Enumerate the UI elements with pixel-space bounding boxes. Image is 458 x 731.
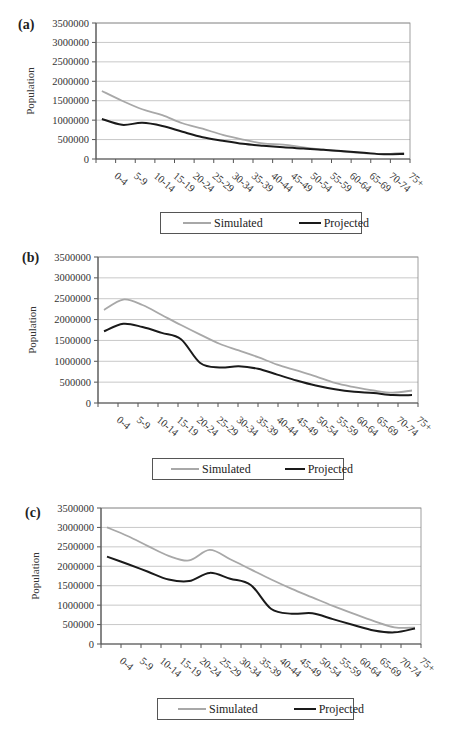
plot-frame (96, 23, 410, 159)
x-tick-label: 0-4 (115, 414, 133, 432)
y-tick-label: 500000 (63, 619, 95, 630)
x-tick-label: 35-39 (255, 414, 281, 438)
x-tick-label: 5-9 (132, 170, 150, 187)
x-tick-label: 5-9 (138, 655, 156, 672)
x-axis-title: Age (243, 443, 262, 445)
y-tick-label: 3500000 (57, 503, 94, 514)
y-tick-label: 0 (84, 154, 89, 165)
legend-a: Simulated Projected (160, 212, 362, 234)
x-tick-label: 55-59 (328, 170, 354, 194)
simulated-series-line (104, 299, 412, 392)
x-tick-label: 65-69 (375, 414, 401, 438)
projected-series-line (104, 324, 412, 396)
y-tick-label: 2000000 (54, 314, 91, 325)
x-tick-label: 0-4 (112, 170, 130, 188)
y-tick-label: 1500000 (54, 335, 91, 346)
x-tick-label: 45-49 (289, 170, 315, 194)
x-tick-label: 35-39 (250, 170, 276, 194)
x-tick-label: 60-64 (355, 414, 381, 439)
legend-item-simulated: Simulated (183, 216, 263, 231)
projected-series-line (102, 119, 404, 154)
x-tick-label: 55-59 (335, 414, 361, 438)
x-tick-label: 50-54 (315, 414, 341, 439)
legend-item-projected: Projected (299, 216, 369, 231)
y-tick-label: 3000000 (54, 272, 91, 283)
x-tick-label: 65-69 (378, 655, 404, 679)
x-tick-label: 10-14 (155, 414, 181, 439)
projected-line-swatch-icon (299, 222, 321, 224)
simulated-series-line (107, 527, 415, 627)
y-tick-label: 1000000 (57, 600, 94, 611)
chart-panel-c: (c) 050000010000001500000200000025000003… (0, 480, 458, 720)
x-tick-label: 45-49 (295, 414, 321, 438)
x-axis-title: Age (238, 199, 257, 200)
chart-a: 0500000100000015000002000000250000030000… (0, 0, 458, 200)
chart-panel-a: (a) 050000010000001500000200000025000003… (0, 0, 458, 240)
plot-frame (98, 257, 418, 403)
y-axis-title: Population (26, 306, 38, 354)
x-tick-label: 40-44 (278, 655, 304, 680)
y-tick-label: 3000000 (52, 37, 89, 48)
legend-label-simulated: Simulated (209, 702, 258, 717)
x-tick-label: 45-49 (298, 655, 324, 679)
x-tick-label: 25-29 (215, 414, 241, 438)
y-tick-label: 3500000 (52, 18, 89, 29)
x-tick-label: 30-34 (235, 414, 261, 439)
legend-label-simulated: Simulated (202, 462, 251, 477)
x-tick-label: 70-74 (398, 655, 424, 680)
y-tick-label: 0 (89, 639, 94, 650)
x-tick-label: 25-29 (210, 170, 236, 194)
legend-item-simulated: Simulated (178, 702, 258, 717)
y-tick-label: 500000 (60, 377, 92, 388)
projected-series-line (107, 557, 415, 633)
x-tick-label: 40-44 (275, 414, 301, 439)
simulated-line-swatch-icon (178, 708, 206, 710)
x-tick-label: 15-19 (178, 655, 204, 679)
projected-line-swatch-icon (294, 708, 316, 710)
x-tick-label: 65-69 (367, 170, 393, 194)
x-tick-label: 15-19 (171, 170, 197, 194)
y-tick-label: 2000000 (52, 76, 89, 87)
simulated-line-swatch-icon (183, 222, 211, 224)
y-tick-label: 1000000 (54, 356, 91, 367)
y-tick-label: 2500000 (52, 56, 89, 67)
y-tick-label: 500000 (58, 134, 90, 145)
x-tick-label: 10-14 (158, 655, 184, 680)
legend-item-simulated: Simulated (171, 462, 251, 477)
legend-label-projected: Projected (308, 462, 353, 477)
x-tick-label: 15-19 (175, 414, 201, 438)
y-tick-label: 1500000 (52, 95, 89, 106)
x-tick-label: 50-54 (318, 655, 344, 680)
legend-label-projected: Projected (319, 702, 364, 717)
legend-label-simulated: Simulated (214, 216, 263, 231)
chart-c: 0500000100000015000002000000250000030000… (0, 480, 458, 680)
projected-line-swatch-icon (285, 468, 305, 470)
y-tick-label: 1000000 (52, 115, 89, 126)
y-tick-label: 3500000 (54, 252, 91, 263)
chart-panel-b: (b) 050000010000001500000200000025000003… (0, 240, 458, 480)
y-tick-label: 1500000 (57, 580, 94, 591)
y-axis-title: Population (29, 552, 41, 600)
plot-frame (101, 508, 421, 644)
legend-item-projected: Projected (294, 702, 364, 717)
x-tick-label: 20-24 (198, 655, 224, 680)
legend-label-projected: Projected (324, 216, 369, 231)
simulated-line-swatch-icon (171, 468, 199, 470)
y-tick-label: 2000000 (57, 561, 94, 572)
x-tick-label: 35-39 (258, 655, 284, 679)
legend-b: Simulated Projected (152, 458, 344, 480)
x-tick-label: 25-29 (218, 655, 244, 679)
x-tick-label: 20-24 (195, 414, 221, 439)
y-tick-label: 2500000 (54, 293, 91, 304)
x-tick-label: 55-59 (338, 655, 364, 679)
chart-b: 0500000100000015000002000000250000030000… (0, 240, 458, 445)
x-tick-label: 0-4 (118, 655, 136, 673)
x-tick-label: 5-9 (135, 414, 153, 431)
y-tick-label: 3000000 (57, 522, 94, 533)
x-tick-label: 70-74 (395, 414, 421, 439)
y-tick-label: 0 (86, 398, 91, 409)
legend-c: Simulated Projected (157, 698, 354, 720)
y-tick-label: 2500000 (57, 541, 94, 552)
y-axis-title: Population (24, 67, 36, 115)
x-tick-label: 30-34 (238, 655, 264, 680)
